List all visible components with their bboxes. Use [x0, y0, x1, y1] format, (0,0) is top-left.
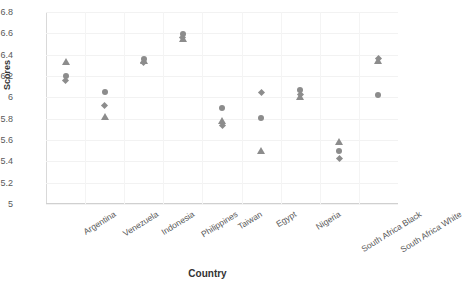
y-axis-tick-label: 5: [0, 200, 13, 209]
y-axis-tick-label: 6.4: [0, 51, 13, 60]
data-point-triangle: [296, 93, 304, 100]
x-axis-tick-label: Philippines: [199, 209, 239, 239]
gridline-horizontal: [46, 183, 398, 184]
data-point-circle: [219, 105, 225, 111]
data-point-triangle: [374, 57, 382, 64]
y-axis-tick-label: 6.6: [0, 29, 13, 38]
gridline-vertical: [242, 12, 243, 204]
gridline-horizontal: [46, 33, 398, 34]
x-axis-tick-label: Indonesia: [159, 209, 196, 237]
x-axis-tick-label: Venezuela: [121, 209, 160, 239]
gridline-vertical: [359, 12, 360, 204]
data-point-circle: [102, 89, 108, 95]
plot-area: [46, 12, 398, 204]
gridline-vertical: [124, 12, 125, 204]
gridline-horizontal: [46, 97, 398, 98]
y-axis-tick-label: 5.2: [0, 179, 13, 188]
x-axis-tick-label: Egypt: [274, 209, 298, 229]
data-point-triangle: [101, 113, 109, 120]
y-axis-tick-label: 5.6: [0, 136, 13, 145]
gridline-horizontal: [46, 140, 398, 141]
gridline-vertical: [281, 12, 282, 204]
gridline-horizontal: [46, 55, 398, 56]
data-point-circle: [258, 115, 264, 121]
gridline-horizontal: [46, 12, 398, 13]
x-axis-tick-label: Argentina: [81, 209, 117, 237]
y-axis-tick-label: 6.8: [0, 8, 13, 17]
gridline-horizontal: [46, 161, 398, 162]
gridline-horizontal: [46, 76, 398, 77]
gridline-vertical: [85, 12, 86, 204]
x-axis-tick-label: Taiwan: [236, 209, 264, 232]
data-point-triangle: [179, 35, 187, 42]
y-axis-tick-label: 6.2: [0, 72, 13, 81]
data-point-triangle: [257, 147, 265, 154]
gridline-horizontal: [46, 204, 398, 205]
y-axis-tick-label: 6: [0, 93, 13, 102]
y-axis-tick-label: 5.8: [0, 115, 13, 124]
data-point-triangle: [335, 138, 343, 145]
x-axis-tick-label: Nigeria: [314, 209, 342, 232]
gridline-vertical: [163, 12, 164, 204]
data-point-diamond: [258, 88, 265, 95]
x-axis-title: Country: [0, 268, 415, 279]
data-point-diamond: [101, 102, 108, 109]
y-axis-line: [46, 12, 47, 204]
gridline-vertical: [320, 12, 321, 204]
y-axis-tick-label: 5.4: [0, 157, 13, 166]
gridline-vertical: [202, 12, 203, 204]
data-point-triangle: [62, 58, 70, 65]
data-point-circle: [336, 148, 342, 154]
